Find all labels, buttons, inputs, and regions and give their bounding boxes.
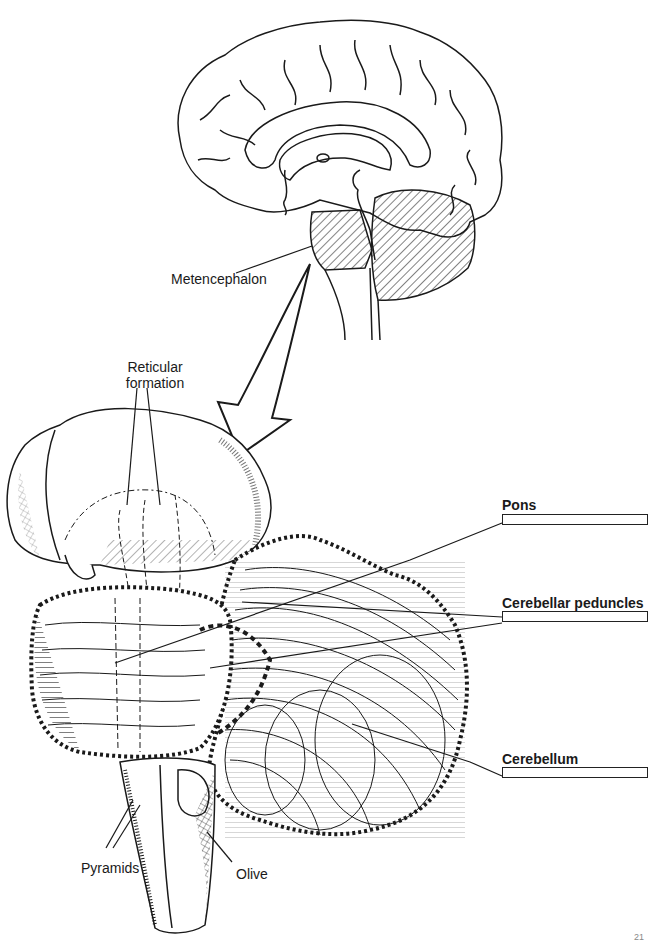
answer-box-cerebellum[interactable]: [502, 767, 648, 778]
label-metencephalon: Metencephalon: [171, 271, 267, 287]
leader-metencephalon: [236, 246, 312, 273]
sagittal-brain: [178, 20, 502, 340]
label-cerebellum: Cerebellum: [502, 751, 578, 767]
label-reticular-formation-line2: formation: [110, 375, 200, 391]
answer-box-pons[interactable]: [502, 514, 648, 525]
enlarge-arrow: [218, 264, 310, 455]
cerebellum-drawing: [209, 536, 467, 840]
page-number: 21: [634, 932, 644, 942]
label-cerebellar-peduncles: Cerebellar peduncles: [502, 595, 644, 611]
answer-box-cerebellar-peduncles[interactable]: [502, 611, 648, 622]
diagram-artwork: [0, 0, 659, 943]
medulla-drawing: [120, 758, 215, 933]
label-pons: Pons: [502, 497, 536, 513]
label-olive: Olive: [236, 866, 268, 882]
label-reticular-formation-line1: Reticular: [110, 359, 200, 375]
label-pyramids: Pyramids: [81, 860, 139, 876]
label-reticular-formation: Reticular formation: [110, 359, 200, 391]
